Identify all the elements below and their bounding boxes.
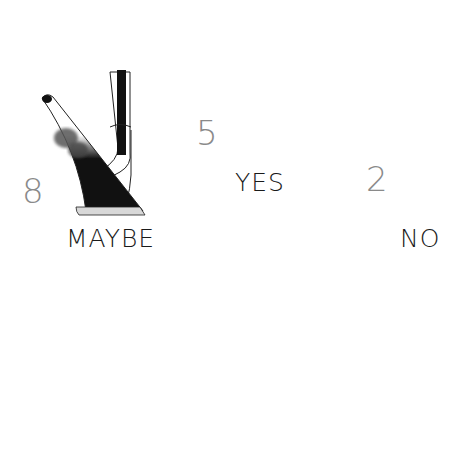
club-number-2: 2	[366, 162, 388, 196]
club-number-5: 5	[196, 116, 218, 150]
sole	[76, 207, 145, 215]
club-verdict-no: NO	[400, 226, 440, 251]
club-8-iron	[42, 70, 145, 215]
club-verdict-maybe: MAYBE	[66, 226, 155, 251]
club-number-8: 8	[22, 174, 44, 208]
club-verdict-yes: YES	[235, 170, 285, 195]
